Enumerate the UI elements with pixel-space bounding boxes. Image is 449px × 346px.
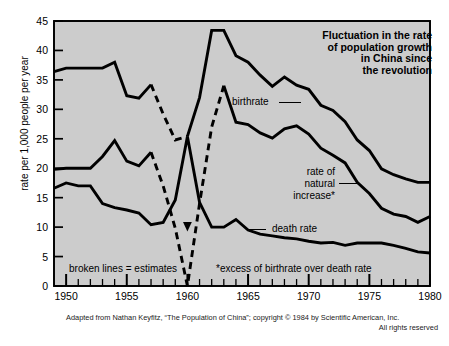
leader-line-birthrate xyxy=(279,102,301,103)
y-tick-label-15: 15 xyxy=(22,192,48,204)
y-tick-label-45: 45 xyxy=(22,15,48,27)
leader-line-death-rate xyxy=(249,229,266,230)
y-tick-label-5: 5 xyxy=(22,251,48,263)
note-broken-lines: broken lines = estimates xyxy=(69,263,177,274)
x-tick-label-1960: 1960 xyxy=(167,290,207,302)
annotation-birthrate: birthrate xyxy=(232,96,269,107)
y-tick-label-10: 10 xyxy=(22,221,48,233)
x-tick-label-1965: 1965 xyxy=(228,290,268,302)
x-tick-label-1980: 1980 xyxy=(410,290,449,302)
leader-line-natural-increase xyxy=(339,183,357,184)
x-tick-label-1975: 1975 xyxy=(349,290,389,302)
chart-title-line-4: the revolution xyxy=(322,65,432,77)
x-tick-label-1970: 1970 xyxy=(289,290,329,302)
y-tick-label-0: 0 xyxy=(22,280,48,292)
annotation-natural-increase-line-1: rate of xyxy=(275,166,335,177)
x-tick-label-1955: 1955 xyxy=(107,290,147,302)
note-footnote: *excess of birthrate over death rate xyxy=(216,263,372,274)
chart-title-line-1: Fluctuation in the rate xyxy=(322,30,432,42)
annotation-natural-increase-line-3: increase* xyxy=(275,190,335,201)
credit-line-2: All rights reserved xyxy=(379,323,438,332)
chart-title: Fluctuation in the rate of population gr… xyxy=(322,30,432,76)
annotation-natural-increase-line-2: natural xyxy=(275,178,335,189)
y-tick-label-30: 30 xyxy=(22,103,48,115)
y-tick-label-20: 20 xyxy=(22,162,48,174)
x-tick-label-1950: 1950 xyxy=(46,290,86,302)
y-tick-label-35: 35 xyxy=(22,74,48,86)
y-tick-label-40: 40 xyxy=(22,44,48,56)
credit-line-1: Adapted from Nathan Keyfitz, “The Popula… xyxy=(66,313,399,322)
annotation-death-rate: death rate xyxy=(272,223,317,234)
y-tick-label-25: 25 xyxy=(22,133,48,145)
